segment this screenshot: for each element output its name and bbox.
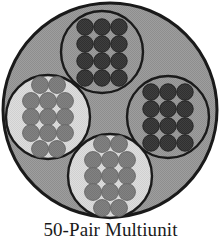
- bottom-bundle-conductor: [102, 168, 119, 185]
- right-bundle-conductor: [160, 118, 176, 134]
- bottom-bundle-conductor: [119, 168, 136, 185]
- top-bundle-conductor: [111, 19, 127, 35]
- left-bundle-conductor: [57, 109, 74, 126]
- top-bundle-conductor: [77, 70, 93, 86]
- right-bundle-conductor: [177, 118, 193, 134]
- bottom-bundle-conductor: [85, 152, 102, 169]
- right-bundle-conductor: [160, 84, 176, 100]
- cable-cross-section-figure: 50-Pair Multiunit: [0, 0, 221, 246]
- top-bundle: [61, 11, 143, 93]
- right-bundle-conductor: [160, 135, 176, 151]
- left-bundle-conductor: [40, 125, 57, 142]
- bottom-bundle-conductor: [119, 184, 136, 201]
- right-bundle-conductor: [143, 84, 159, 100]
- cable-diagram: [0, 0, 221, 222]
- left-bundle-conductor: [40, 93, 57, 110]
- diagram-area: [0, 0, 221, 222]
- top-bundle-conductor: [111, 36, 127, 52]
- top-bundle-conductor: [94, 70, 110, 86]
- right-bundle-conductor: [143, 118, 159, 134]
- cable-geometry: [3, 3, 217, 218]
- bottom-bundle-conductor: [111, 136, 128, 153]
- bottom-bundle-conductor: [94, 136, 111, 153]
- right-bundle-conductor: [143, 135, 159, 151]
- bottom-bundle: [68, 134, 152, 218]
- right-bundle-conductor: [177, 101, 193, 117]
- top-bundle-conductor: [94, 53, 110, 69]
- left-bundle-conductor: [49, 77, 66, 94]
- right-bundle-conductor: [143, 101, 159, 117]
- top-bundle-conductor: [77, 53, 93, 69]
- left-bundle-conductor: [23, 125, 40, 142]
- left-bundle-conductor: [23, 109, 40, 126]
- left-bundle-conductor: [40, 109, 57, 126]
- top-bundle-conductor: [111, 53, 127, 69]
- left-bundle-conductor: [57, 125, 74, 142]
- left-bundle-conductor: [32, 141, 49, 158]
- bottom-bundle-conductor: [85, 184, 102, 201]
- bottom-bundle-conductor: [102, 152, 119, 169]
- top-bundle-conductor: [77, 36, 93, 52]
- top-bundle-conductor: [111, 70, 127, 86]
- left-bundle-conductor: [49, 141, 66, 158]
- right-bundle-conductor: [160, 101, 176, 117]
- left-bundle-conductor: [32, 77, 49, 94]
- top-bundle-conductor: [94, 36, 110, 52]
- right-bundle-conductor: [177, 135, 193, 151]
- bottom-bundle-conductor: [119, 152, 136, 169]
- bottom-bundle-conductor: [85, 168, 102, 185]
- right-bundle-conductor: [177, 84, 193, 100]
- left-bundle-conductor: [23, 93, 40, 110]
- top-bundle-conductor: [77, 19, 93, 35]
- bottom-bundle-conductor: [102, 184, 119, 201]
- bottom-bundle-conductor: [94, 200, 111, 217]
- left-bundle-conductor: [57, 93, 74, 110]
- figure-caption: 50-Pair Multiunit: [0, 219, 221, 241]
- left-bundle: [6, 75, 90, 159]
- top-bundle-conductor: [94, 19, 110, 35]
- bottom-bundle-conductor: [111, 200, 128, 217]
